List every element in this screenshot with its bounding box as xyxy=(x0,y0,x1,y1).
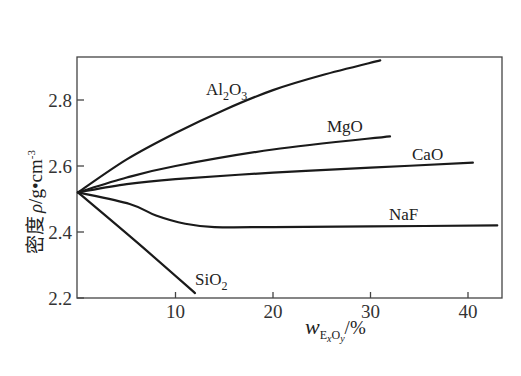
series-label-cao: CaO xyxy=(412,145,443,164)
x-tick-label: 10 xyxy=(166,301,185,322)
series-curves xyxy=(78,60,497,293)
plot-frame xyxy=(77,57,502,298)
y-tick-label: 2.8 xyxy=(48,90,72,111)
series-label-naf: NaF xyxy=(389,205,418,224)
x-tick-label: 40 xyxy=(459,301,478,322)
x-axis-title: wExOy/% xyxy=(305,314,366,344)
x-tick-label: 20 xyxy=(264,301,283,322)
series-label-al2o3: Al2O3 xyxy=(206,80,247,103)
y-tick-label: 2.6 xyxy=(48,156,72,177)
y-axis-title: 密度ρ/g•cm-3 xyxy=(25,150,46,254)
density-chart: 102030402.22.42.62.8 Al2O3 MgO CaO NaF S… xyxy=(0,0,521,376)
series-line-naf xyxy=(78,192,497,227)
series-label-sio2: SiO2 xyxy=(195,270,227,293)
series-line-cao xyxy=(78,163,473,193)
y-tick-label: 2.4 xyxy=(48,222,72,243)
series-label-mgo: MgO xyxy=(327,117,363,136)
y-tick-label: 2.2 xyxy=(48,288,72,309)
